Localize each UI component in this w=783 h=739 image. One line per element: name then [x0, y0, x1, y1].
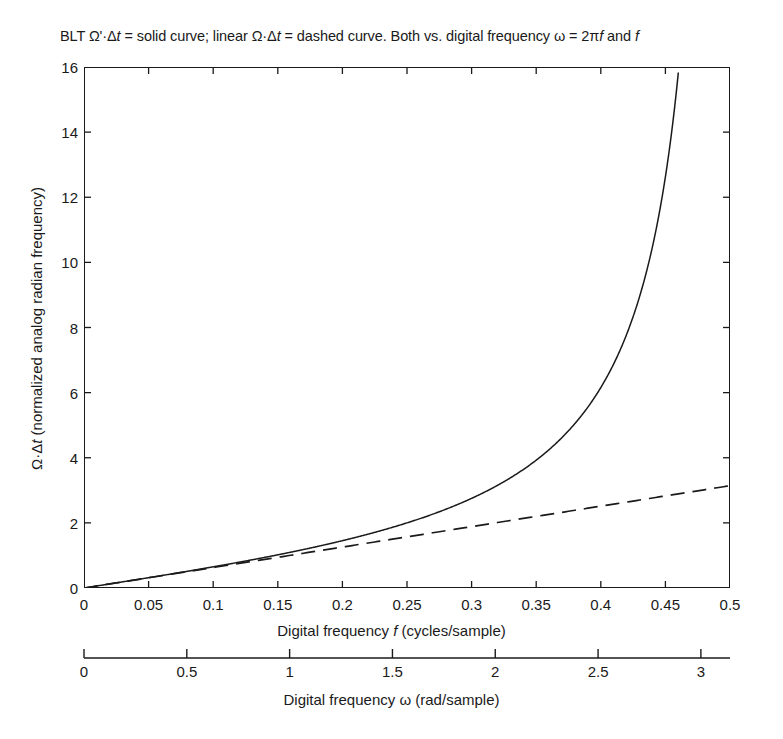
- chart-title-f2: f: [635, 28, 639, 44]
- secondary-tick-label: 0: [49, 663, 119, 680]
- secondary-tick-label: 0.5: [152, 663, 222, 680]
- y-tick-label: 16: [38, 60, 78, 75]
- chart-title: BLT Ω'·Δt = solid curve; linear Ω·Δt = d…: [60, 28, 639, 44]
- x-tick-label: 0.05: [114, 596, 184, 613]
- series-linear-curve: [84, 486, 730, 588]
- secondary-tick-label: 1.5: [357, 663, 427, 680]
- y-axis-title: Ω·Δt (normalized analog radian frequency…: [28, 79, 45, 579]
- chart-title-mid: = solid curve; linear Ω·Δ: [121, 28, 277, 44]
- x-tick-label: 0.5: [695, 596, 765, 613]
- x-tick-label: 0.1: [178, 596, 248, 613]
- secondary-tick-label: 1: [255, 663, 325, 680]
- plot-area: [84, 67, 730, 588]
- y-axis-title-sym: t: [28, 440, 45, 444]
- secondary-tick-label: 3: [666, 663, 736, 680]
- x-axis-title-pre: Digital frequency: [277, 622, 393, 639]
- secondary-tick-label: 2.5: [563, 663, 633, 680]
- x-tick-label: 0.3: [437, 596, 507, 613]
- x-tick-label: 0.25: [372, 596, 442, 613]
- x-axis-title: Digital frequency f (cycles/sample): [0, 622, 783, 639]
- chart-title-mid3: and: [603, 28, 635, 44]
- secondary-axis-title: Digital frequency ω (rad/sample): [0, 691, 783, 708]
- x-tick-label: 0.2: [307, 596, 377, 613]
- figure-canvas: BLT Ω'·Δt = solid curve; linear Ω·Δt = d…: [0, 0, 783, 739]
- clipped-text-remnant: [0, 0, 783, 2]
- x-tick-label: 0: [49, 596, 119, 613]
- x-tick-label: 0.35: [501, 596, 571, 613]
- secondary-tick-label: 2: [460, 663, 530, 680]
- chart-title-mid2: = dashed curve. Both vs. digital frequen…: [281, 28, 600, 44]
- x-axis-title-post: (cycles/sample): [397, 622, 505, 639]
- x-tick-label: 0.15: [243, 596, 313, 613]
- y-axis-title-pre: Ω·Δ: [28, 444, 45, 470]
- x-tick-label: 0.4: [566, 596, 636, 613]
- secondary-axis-line: [78, 646, 738, 662]
- y-axis-title-post: (normalized analog radian frequency): [28, 187, 45, 440]
- axis-tick-marks: [84, 67, 730, 588]
- x-tick-label: 0.45: [630, 596, 700, 613]
- series-blt-curve: [84, 72, 678, 588]
- y-tick-label: 0: [38, 581, 78, 596]
